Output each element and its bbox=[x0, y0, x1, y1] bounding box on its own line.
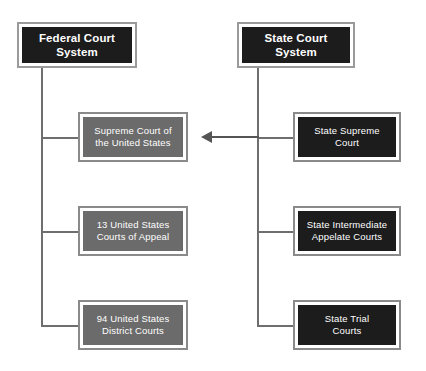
state-branch-supreme bbox=[257, 137, 293, 139]
federal-branch-trial bbox=[41, 325, 78, 327]
state-header-line1: State Court bbox=[264, 32, 327, 44]
state-court-system-header: State Court System bbox=[237, 22, 355, 68]
federal-branch-supreme bbox=[41, 137, 78, 139]
supreme-court-of-the-united-states-box: Supreme Court of the United States bbox=[78, 112, 188, 162]
state-appellate-line2: Appelate Courts bbox=[312, 231, 382, 242]
us-trial-line1: 94 United States bbox=[97, 313, 170, 324]
state-supreme-line2: Court bbox=[335, 137, 359, 148]
federal-header-fill: Federal Court System bbox=[22, 27, 132, 63]
arrow-shaft bbox=[211, 136, 259, 138]
state-header-fill: State Court System bbox=[242, 27, 350, 63]
us-supreme-line2: the United States bbox=[95, 137, 170, 148]
appeal-arrow bbox=[201, 131, 259, 144]
state-header-line2: System bbox=[275, 46, 317, 58]
state-trunk-line bbox=[257, 68, 259, 327]
state-trial-line1: State Trial bbox=[325, 313, 369, 324]
state-appellate-line1: State Intermediate bbox=[307, 219, 387, 230]
federal-header-line1: Federal Court bbox=[39, 32, 115, 44]
federal-court-system-header: Federal Court System bbox=[17, 22, 137, 68]
us-district-courts-box: 94 United States District Courts bbox=[78, 300, 188, 350]
us-courts-of-appeal-box: 13 United States Courts of Appeal bbox=[78, 206, 188, 256]
state-supreme-fill: State Supreme Court bbox=[298, 117, 396, 157]
state-appellate-fill: State Intermediate Appelate Courts bbox=[298, 211, 396, 251]
state-branch-trial bbox=[257, 325, 293, 327]
state-trial-fill: State Trial Courts bbox=[298, 305, 396, 345]
state-branch-appellate bbox=[257, 231, 293, 233]
federal-branch-appellate bbox=[41, 231, 78, 233]
state-intermediate-appelate-courts-box: State Intermediate Appelate Courts bbox=[293, 206, 401, 256]
us-supreme-line1: Supreme Court of bbox=[94, 125, 171, 136]
us-appellate-line1: 13 United States bbox=[97, 219, 170, 230]
us-trial-line2: District Courts bbox=[102, 325, 164, 336]
us-supreme-fill: Supreme Court of the United States bbox=[83, 117, 183, 157]
state-supreme-court-box: State Supreme Court bbox=[293, 112, 401, 162]
state-trial-courts-box: State Trial Courts bbox=[293, 300, 401, 350]
state-trial-line2: Courts bbox=[333, 325, 362, 336]
state-supreme-line1: State Supreme bbox=[314, 125, 379, 136]
us-appellate-line2: Courts of Appeal bbox=[97, 231, 170, 242]
court-system-diagram: Federal Court System Supreme Court of th… bbox=[0, 0, 426, 371]
federal-header-line2: System bbox=[56, 46, 98, 58]
us-appellate-fill: 13 United States Courts of Appeal bbox=[83, 211, 183, 251]
us-trial-fill: 94 United States District Courts bbox=[83, 305, 183, 345]
federal-trunk-line bbox=[41, 68, 43, 327]
